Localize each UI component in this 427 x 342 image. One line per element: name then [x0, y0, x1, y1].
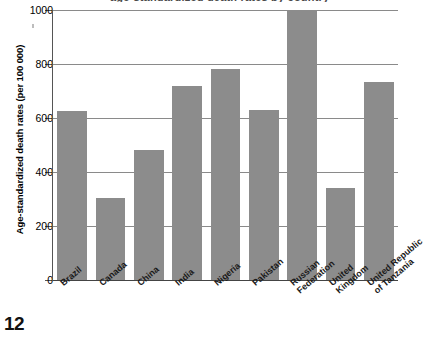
bar[interactable]	[287, 10, 317, 280]
y-tick-label: 400	[11, 167, 53, 177]
bar[interactable]	[172, 86, 202, 280]
y-tick-label: 600	[11, 113, 53, 123]
chart-title-partial: age-standardized death rates by country	[110, 0, 390, 2]
x-axis-tick-labels: BrazilCanadaChinaIndiaNigeriaPakistanRus…	[53, 281, 398, 342]
bar[interactable]	[249, 110, 279, 280]
bar[interactable]	[134, 150, 164, 280]
y-tick-label: 1000	[11, 5, 53, 15]
y-axis-ticks: 10008006004002000	[0, 0, 53, 342]
stray-mark	[32, 24, 34, 28]
y-tick-label: 800	[11, 59, 53, 69]
bar[interactable]	[57, 111, 87, 280]
gridline-800	[53, 64, 398, 65]
bar[interactable]	[364, 82, 394, 280]
y-tick-label: 200	[11, 221, 53, 231]
y-tick-label: 0	[11, 275, 53, 285]
gridline-1000	[53, 10, 398, 11]
page-number: 12	[4, 313, 24, 335]
plot-area	[53, 10, 398, 280]
bar[interactable]	[211, 69, 241, 280]
